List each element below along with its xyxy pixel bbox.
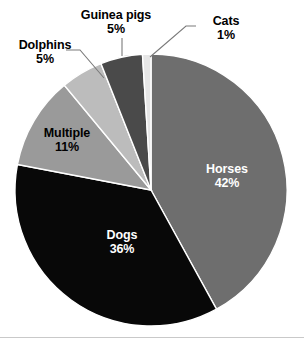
slice-callout-dolphins: Dolphins 5% xyxy=(6,38,84,66)
slice-callout-dolphins-percent: 5% xyxy=(6,52,84,66)
slice-label-horses-percent: 42% xyxy=(184,176,270,190)
slice-label-horses-name: Horses xyxy=(206,162,248,176)
slice-label-multiple-name: Multiple xyxy=(44,126,90,140)
slice-callout-guinea-pigs: Guinea pigs 5% xyxy=(68,8,164,36)
bottom-divider xyxy=(0,337,304,338)
slice-callout-cats-percent: 1% xyxy=(198,28,254,42)
slice-callout-guinea-pigs-percent: 5% xyxy=(68,22,164,36)
pie-chart: Dolphins 5% Guinea pigs 5% Cats 1% Horse… xyxy=(0,0,304,346)
slice-callout-dolphins-name: Dolphins xyxy=(19,38,72,52)
slice-callout-guinea-pigs-name: Guinea pigs xyxy=(81,8,151,22)
slice-label-dogs: Dogs 36% xyxy=(79,228,165,256)
slice-label-horses: Horses 42% xyxy=(184,162,270,190)
slice-label-dogs-name: Dogs xyxy=(107,228,138,242)
slice-label-multiple: Multiple 11% xyxy=(21,126,113,154)
slice-callout-cats-name: Cats xyxy=(213,14,240,28)
slice-label-dogs-percent: 36% xyxy=(79,242,165,256)
slice-label-multiple-percent: 11% xyxy=(21,140,113,154)
slice-callout-cats: Cats 1% xyxy=(198,14,254,42)
